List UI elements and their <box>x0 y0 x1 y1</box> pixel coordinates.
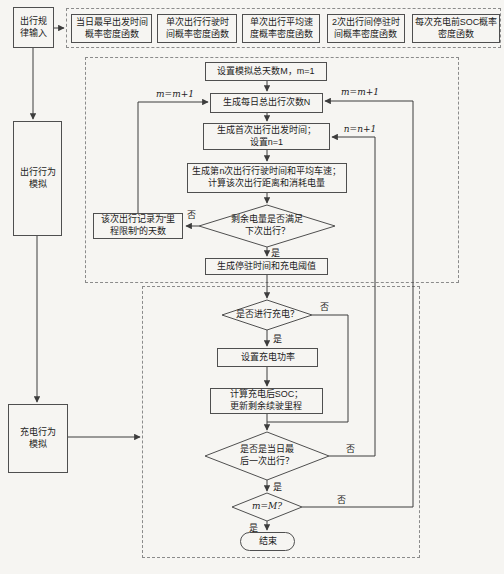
gen-nth-trip-label: 生成第n次出行行驶时间和平均车速； 计算该次出行距离和消耗电量 <box>192 166 341 189</box>
all-days-decision-text: m=M? <box>232 501 302 513</box>
travel-behavior-sim-box: 出行行为 模拟 <box>13 121 62 236</box>
pdf-function-box-parking-duration: 2次出行间停驻时 间概率密度函数 <box>327 14 405 43</box>
connector-lines <box>0 0 504 574</box>
gen-daily-trips-label: 生成每日总出行次数N <box>223 97 311 109</box>
gen-daily-trips-node: 生成每日总出行次数N <box>210 93 323 113</box>
calc-post-soc-label: 计算充电后SOC； 更新剩余续驶里程 <box>230 389 304 412</box>
last-trip-decision-text: 是否是当日最 后一次出行？ <box>212 444 322 467</box>
label-charge-decision-yes: 是 <box>273 332 282 345</box>
label-all-days-yes: 是 <box>249 521 258 534</box>
charge-behavior-sim-box: 充电行为 模拟 <box>8 404 68 473</box>
pdf-box-label: 当日最早出发时间 概率密度函数 <box>76 17 148 40</box>
range-limited-record-box: 该次出行记录为“里 程限制”的天数 <box>93 213 183 239</box>
gen-parking-threshold-label: 生成停驻时间和充电阈值 <box>217 261 316 273</box>
end-node: 结束 <box>240 532 295 551</box>
gen-first-departure-label: 生成首次出行出发时间； 设置n=1 <box>217 125 316 148</box>
gen-nth-trip-node: 生成第n次出行行驶时间和平均车速； 计算该次出行距离和消耗电量 <box>187 163 347 193</box>
pdf-box-label: 单次出行平均速 度概率密度函数 <box>250 17 313 40</box>
label-last-trip-no: 否 <box>346 442 355 455</box>
pdf-box-label: 单次出行行驶时 间概率密度函数 <box>166 17 229 40</box>
label-charge-decision-no: 否 <box>320 300 329 313</box>
pdf-function-box-average-speed: 单次出行平均速 度概率密度函数 <box>242 14 320 43</box>
pdf-box-label: 2次出行间停驻时 间概率密度函数 <box>332 17 400 40</box>
set-total-days-node: 设置模拟总天数M，m=1 <box>205 62 327 81</box>
gen-parking-threshold-node: 生成停驻时间和充电阈值 <box>205 258 328 275</box>
travel-pattern-input-box: 出行规 律输入 <box>13 7 54 48</box>
set-charge-power-label: 设置充电功率 <box>241 352 295 364</box>
pdf-function-box-pre-charge-soc: 每次充电前SOC概率 密度函数 <box>412 14 500 43</box>
calc-post-soc-node: 计算充电后SOC； 更新剩余续驶里程 <box>210 388 323 414</box>
label-m-increment-right: m=m+1 <box>341 87 379 97</box>
label-last-trip-yes: 是 <box>273 480 282 493</box>
end-label: 结束 <box>259 536 277 548</box>
travel-pattern-input-label: 出行规 律输入 <box>20 16 47 39</box>
charge-decision-text: 是否进行充电？ <box>222 309 312 321</box>
label-soc-decision-yes: 是 <box>271 246 280 259</box>
flowchart-canvas: 出行规 律输入 出行行为 模拟 充电行为 模拟 当日最早出发时间 概率密度函数 … <box>0 0 504 574</box>
soc-sufficient-decision-text: 剩余电量是否满足 下次出行？ <box>207 214 327 237</box>
pdf-function-box-earliest-departure: 当日最早出发时间 概率密度函数 <box>71 14 152 43</box>
label-all-days-no: 否 <box>337 493 346 506</box>
set-total-days-label: 设置模拟总天数M，m=1 <box>217 66 314 78</box>
pdf-function-box-trip-duration: 单次出行行驶时 间概率密度函数 <box>157 14 237 43</box>
m-increment-left-line <box>138 102 208 213</box>
set-charge-power-node: 设置充电功率 <box>217 348 318 367</box>
label-m-increment-left: m=m+1 <box>156 89 194 99</box>
label-soc-decision-no: 否 <box>187 208 196 221</box>
label-n-increment: n=n+1 <box>344 124 376 134</box>
travel-behavior-sim-label: 出行行为 模拟 <box>20 167 56 190</box>
gen-first-departure-node: 生成首次出行出发时间； 设置n=1 <box>203 123 330 150</box>
pdf-box-label: 每次充电前SOC概率 密度函数 <box>415 17 498 40</box>
range-limited-record-label: 该次出行记录为“里 程限制”的天数 <box>101 214 176 237</box>
charge-behavior-sim-label: 充电行为 模拟 <box>20 427 56 450</box>
